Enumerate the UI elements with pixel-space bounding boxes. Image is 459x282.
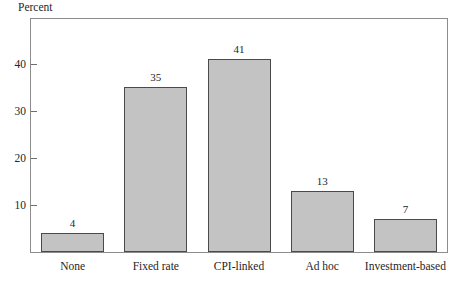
bar-value-label: 7: [375, 203, 435, 215]
x-tick-label: Investment-based: [355, 259, 455, 273]
y-tick-label: 40: [0, 58, 26, 70]
y-tick-label: 30: [0, 105, 26, 117]
y-tick-label: 20: [0, 152, 26, 164]
bar-value-label: 4: [43, 217, 103, 229]
bar: [374, 219, 437, 252]
bar: [41, 233, 104, 252]
y-axis-title: Percent: [18, 0, 52, 14]
bar: [291, 191, 354, 252]
bar-chart: Percent 10203040 43541137 NoneFixed rate…: [0, 0, 459, 282]
y-tick-mark: [31, 205, 37, 206]
bar-value-label: 41: [209, 43, 269, 55]
bar: [124, 87, 187, 252]
y-tick-label: 10: [0, 199, 26, 211]
bar-value-label: 35: [126, 71, 186, 83]
y-tick-mark: [31, 158, 37, 159]
bar: [208, 59, 271, 252]
y-tick-mark: [31, 64, 37, 65]
y-tick-mark: [31, 111, 37, 112]
bar-value-label: 13: [292, 175, 352, 187]
